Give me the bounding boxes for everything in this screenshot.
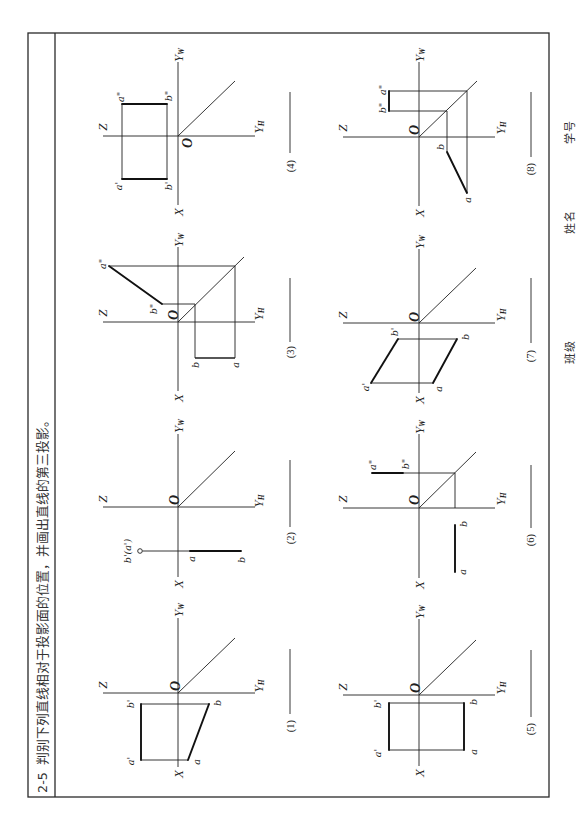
y-h-axis-label: YH bbox=[493, 120, 508, 134]
y-w-axis-label: YW bbox=[412, 234, 427, 249]
origin-label: O bbox=[407, 495, 422, 505]
45-degree-line bbox=[419, 81, 477, 137]
point-label-b-double-prime: b" bbox=[377, 103, 388, 113]
point-label-b-double-prime: b" bbox=[163, 91, 174, 101]
figure-caption: (7) bbox=[525, 349, 537, 362]
exercise-title: 2-5判别下列直线相对于投影面的位置，并画出直线的第三投影。 bbox=[35, 414, 50, 793]
x-axis-label: X bbox=[412, 208, 427, 218]
point-label-b-prime: b' bbox=[163, 182, 174, 191]
45-degree-line bbox=[419, 268, 476, 323]
z-axis-label: Z bbox=[95, 495, 110, 503]
y-w-axis-label: YW bbox=[412, 47, 427, 62]
student-id-label: 学号 bbox=[563, 120, 577, 144]
y-h-axis-label: YH bbox=[493, 307, 508, 321]
figure-7: Z O YH YW X b' a' b a (7) bbox=[335, 234, 537, 405]
z-axis-label: Z bbox=[335, 311, 350, 319]
origin-label: O bbox=[408, 683, 423, 693]
point-label-a: a bbox=[462, 197, 473, 203]
y-w-axis-label: YW bbox=[171, 47, 186, 62]
point-label-b: b bbox=[212, 700, 223, 706]
worksheet-page: 2-5判别下列直线相对于投影面的位置，并画出直线的第三投影。 Z O YH YW… bbox=[0, 0, 581, 822]
figure-caption: (1) bbox=[285, 719, 297, 732]
y-h-axis-label: YH bbox=[251, 678, 266, 692]
45-degree-line bbox=[419, 640, 476, 695]
figure-6: Z O YH YW X a" b" b a (6) bbox=[335, 419, 537, 590]
point-label-a-prime: a' bbox=[113, 182, 124, 190]
line-v-projection bbox=[371, 339, 398, 383]
exercise-number: 2-5 bbox=[35, 772, 50, 793]
point-label-b: b bbox=[236, 557, 247, 563]
y-w-axis-label: YW bbox=[412, 604, 427, 619]
figure-caption: (2) bbox=[285, 531, 297, 544]
origin-label: O bbox=[407, 125, 422, 135]
point-label-a-double-prime: a" bbox=[367, 460, 378, 470]
figure-8: Z O YH YW X a" b" b a (8) bbox=[335, 47, 537, 218]
line-w-projection bbox=[109, 266, 162, 304]
point-label-a-double-prime: a" bbox=[377, 85, 388, 95]
y-w-axis-label: YW bbox=[171, 602, 186, 617]
45-degree-line bbox=[419, 452, 476, 508]
y-h-axis-label: YH bbox=[493, 491, 508, 505]
figure-5: Z O YH YW X b' a' b a (5) bbox=[335, 604, 537, 778]
45-degree-line bbox=[178, 81, 235, 136]
point-label-b: b bbox=[435, 144, 446, 150]
point-label-a: a bbox=[433, 386, 444, 392]
x-axis-label: X bbox=[412, 580, 427, 590]
origin-label: O bbox=[166, 310, 181, 320]
45-degree-line bbox=[178, 638, 235, 693]
x-axis-label: X bbox=[171, 769, 186, 779]
worksheet-drawing: 2-5判别下列直线相对于投影面的位置，并画出直线的第三投影。 Z O YH YW… bbox=[0, 0, 581, 822]
point-label-b: b bbox=[460, 334, 471, 340]
z-axis-label: Z bbox=[335, 495, 350, 503]
z-axis-label: Z bbox=[95, 309, 110, 317]
figure-caption: (4) bbox=[285, 159, 297, 172]
point-label-b: b bbox=[190, 362, 201, 368]
origin-label: O bbox=[407, 312, 422, 322]
x-axis-label: X bbox=[412, 768, 427, 778]
exercise-instruction: 判别下列直线相对于投影面的位置，并画出直线的第三投影。 bbox=[35, 414, 50, 765]
y-h-axis-label: YH bbox=[251, 306, 266, 320]
point-label-a: a bbox=[191, 759, 202, 765]
point-label-b-double-prime: b" bbox=[400, 459, 411, 469]
point-label-b-double-prime: b" bbox=[148, 304, 159, 314]
line-h-projection bbox=[188, 704, 209, 760]
y-w-axis-label: YW bbox=[171, 418, 186, 433]
y-w-axis-label: YW bbox=[412, 419, 427, 434]
point-label-a: a bbox=[186, 556, 197, 562]
figure-caption: (5) bbox=[525, 722, 537, 735]
45-degree-line bbox=[178, 451, 235, 507]
x-axis-label: X bbox=[171, 207, 186, 217]
class-label: 班级 bbox=[564, 340, 577, 364]
point-label-a: a bbox=[468, 749, 479, 755]
point-label-b: b bbox=[468, 699, 479, 705]
y-h-axis-label: YH bbox=[251, 493, 266, 507]
point-label-b: b bbox=[458, 521, 469, 527]
x-axis-label: X bbox=[171, 393, 186, 403]
point-label-b-prime: b' bbox=[389, 328, 400, 337]
point-label-a-double-prime: a" bbox=[115, 92, 126, 102]
y-h-axis-label: YH bbox=[251, 119, 266, 133]
45-degree-line bbox=[178, 257, 244, 322]
point-label-a: a bbox=[457, 569, 468, 575]
point-marker-b-prime-a-prime bbox=[138, 549, 143, 554]
figure-2: Z O YH YW X b'(a') a b (2) bbox=[95, 418, 297, 589]
point-label-b-prime-a-prime: b'(a') bbox=[122, 539, 133, 564]
point-label-b-prime: b' bbox=[125, 700, 136, 709]
figure-3: Z O YH YW X a" b" b a (3) bbox=[95, 232, 297, 403]
point-label-a-prime: a' bbox=[372, 749, 383, 757]
line-h-projection bbox=[447, 152, 467, 193]
z-axis-label: Z bbox=[95, 681, 110, 689]
origin-label: O bbox=[180, 138, 195, 148]
origin-label: O bbox=[167, 495, 182, 505]
x-axis-label: X bbox=[171, 579, 186, 589]
line-h-projection bbox=[433, 339, 457, 383]
point-label-a-prime: a' bbox=[360, 383, 371, 391]
figure-caption: (8) bbox=[525, 162, 537, 175]
y-h-axis-label: YH bbox=[493, 680, 508, 694]
point-label-a: a bbox=[230, 362, 241, 368]
figure-1: Z O YH YW X b' a' b a (1) bbox=[95, 602, 297, 779]
figure-caption: (3) bbox=[285, 345, 297, 358]
point-label-a-prime: a' bbox=[125, 757, 136, 765]
figure-caption: (6) bbox=[525, 533, 537, 546]
z-axis-label: Z bbox=[95, 123, 110, 131]
